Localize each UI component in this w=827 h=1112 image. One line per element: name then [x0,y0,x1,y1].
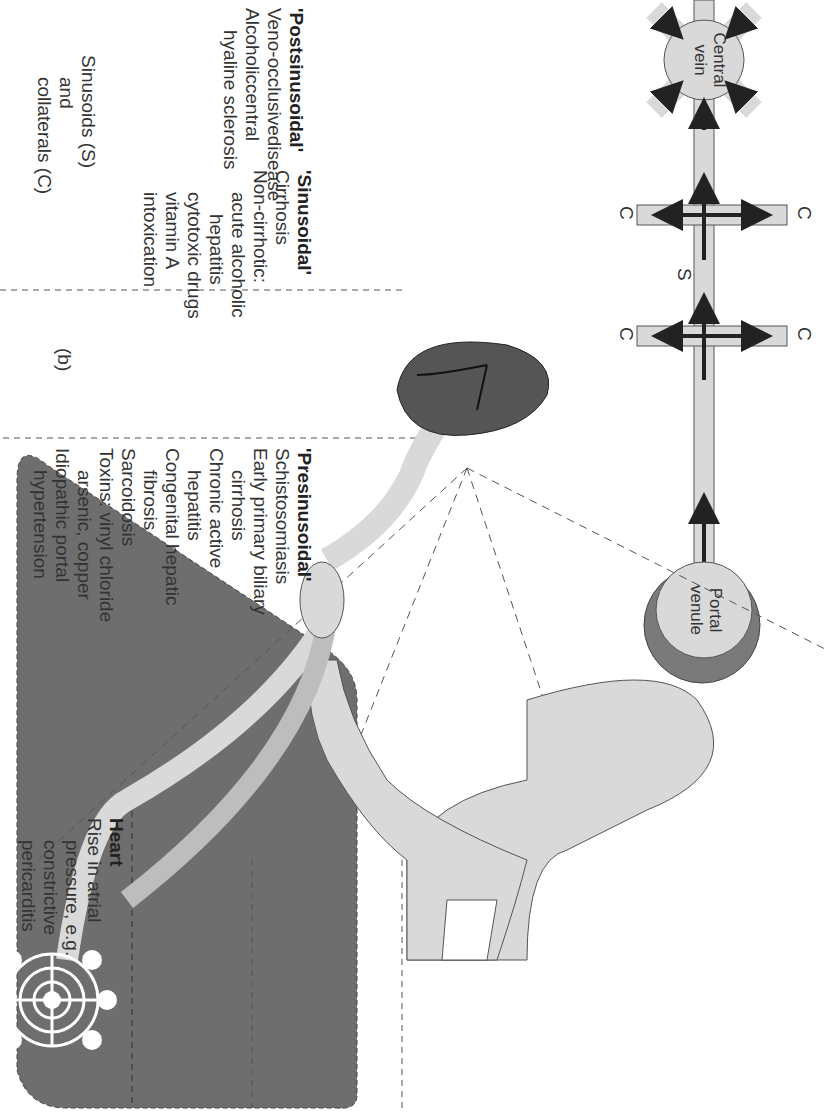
portal-venule-label: Portal venule [687,580,725,640]
collateral-c-label: C [615,206,637,220]
diagram-stage: 'Postsinusoidal' Veno-occlusivedisease A… [0,0,827,1112]
presinusoidal-block: 'Presinusoidal' Schistosomiasis Early pr… [29,448,315,622]
sinusoidal-block-content: 'Sinusoidal' Cirrhosis Non-cirrhotic: ac… [139,170,315,319]
panel-b-label: (b) [53,348,75,371]
collateral-c-label: C [793,206,815,220]
collateral-c-label: C [793,327,815,341]
splenic-vein-vessel [327,410,447,560]
collateral-c-label: C [615,327,637,341]
central-vein-label: Central vein [691,30,729,90]
sc-legend: Sinusoids (S) and collaterals (C) [33,55,99,194]
spleen-graphic [397,342,549,435]
sinusoid-s-label: S [673,268,695,281]
heart-block: Heart Rise in atrial pressure, e.g. cons… [17,818,127,956]
